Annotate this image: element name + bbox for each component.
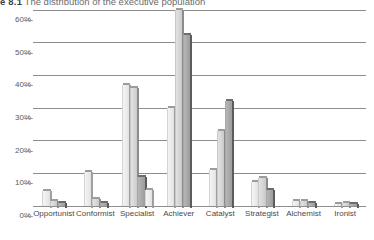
y-axis: 0%10%20%30%40%50%60%	[0, 10, 31, 210]
gridline-60	[33, 10, 366, 11]
bar-specialist-dark	[137, 177, 144, 206]
gridline-30	[33, 108, 366, 109]
bar-side-edge	[190, 35, 192, 209]
figure-caption: The distribution of the executive popula…	[25, 0, 206, 7]
bar-ironist-dark	[349, 204, 356, 206]
x-axis: OpportunistConformistSpecialistAchieverC…	[33, 209, 366, 225]
bar-side-edge	[107, 203, 109, 208]
bar-strategist-dark	[266, 190, 273, 206]
bar-strategist-light	[251, 182, 258, 207]
bar-opportunist-medium	[50, 201, 57, 206]
x-tick-label-ironist: Ironist	[334, 209, 356, 219]
x-tick-label-opportunist: Opportunist	[33, 209, 74, 219]
x-tick-label-specialist: Specialist	[120, 209, 154, 219]
bar-achiever-medium	[175, 10, 182, 206]
bar-side-edge	[232, 101, 234, 208]
bar-conformist-light	[84, 172, 91, 206]
x-tick-label-alchemist: Alchemist	[286, 209, 321, 219]
gridline-40	[33, 75, 366, 76]
figure-number: e 8.1	[0, 0, 22, 7]
bar-catalyst-dark	[225, 101, 232, 206]
gridline-50	[33, 42, 366, 43]
bar-ironist-medium	[342, 203, 349, 206]
bar-ironist-light	[334, 204, 341, 206]
bar-conformist-medium	[92, 199, 99, 206]
bar-catalyst-light	[209, 170, 216, 206]
bar-achiever-dark	[183, 35, 190, 207]
bar-specialist-light	[145, 190, 152, 206]
x-tick-label-catalyst: Catalyst	[206, 209, 235, 219]
bar-side-edge	[65, 203, 67, 208]
bar-side-edge	[152, 190, 154, 208]
figure-container: e 8.1 The distribution of the executive …	[0, 0, 374, 240]
bar-specialist-medium	[130, 88, 137, 206]
gridline-20	[33, 140, 366, 141]
x-tick-label-conformist: Conformist	[76, 209, 115, 219]
bar-alchemist-dark	[308, 203, 315, 206]
x-tick-label-strategist: Strategist	[245, 209, 279, 219]
bar-side-edge	[315, 203, 317, 208]
gridline-10	[33, 173, 366, 174]
bar-alchemist-light	[292, 201, 299, 206]
bar-side-edge	[273, 190, 275, 208]
plot-area	[33, 10, 366, 206]
bar-catalyst-medium	[217, 131, 224, 206]
bar-opportunist-light	[42, 191, 49, 206]
bar-alchemist-medium	[300, 201, 307, 206]
x-tick-label-achiever: Achiever	[163, 209, 194, 219]
bar-conformist-dark	[100, 203, 107, 206]
bar-side-edge	[357, 204, 359, 208]
bar-opportunist-dark	[58, 203, 65, 206]
bar-specialist-light	[122, 85, 129, 206]
figure-title: e 8.1 The distribution of the executive …	[0, 0, 374, 9]
bar-strategist-medium	[258, 178, 265, 206]
bar-achiever-light	[167, 108, 174, 206]
